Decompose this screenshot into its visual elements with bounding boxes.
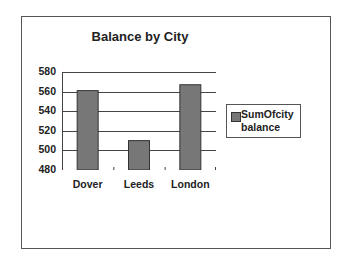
chart-title: Balance by City <box>0 29 348 44</box>
y-tick-label: 480 <box>28 163 56 175</box>
legend-label-line1: SumOfcity <box>241 108 294 121</box>
bar-dover <box>77 91 98 170</box>
chart-title-text: Balance by City <box>92 29 189 44</box>
y-tick-label: 500 <box>28 143 56 155</box>
x-tick-label: Leeds <box>113 178 165 190</box>
plot-area <box>62 72 216 170</box>
legend-label: SumOfcity balance <box>241 108 294 134</box>
x-tick-label: Dover <box>62 178 114 190</box>
bar-leeds <box>129 141 150 170</box>
legend-swatch-icon <box>231 112 241 122</box>
legend: SumOfcity balance <box>226 104 301 138</box>
bar-london <box>180 85 201 170</box>
y-tick-label: 520 <box>28 124 56 136</box>
x-tick-label: London <box>164 178 216 190</box>
legend-label-line2: balance <box>241 121 294 134</box>
y-tick-label: 580 <box>28 65 56 77</box>
y-tick-label: 540 <box>28 104 56 116</box>
y-tick-label: 560 <box>28 85 56 97</box>
